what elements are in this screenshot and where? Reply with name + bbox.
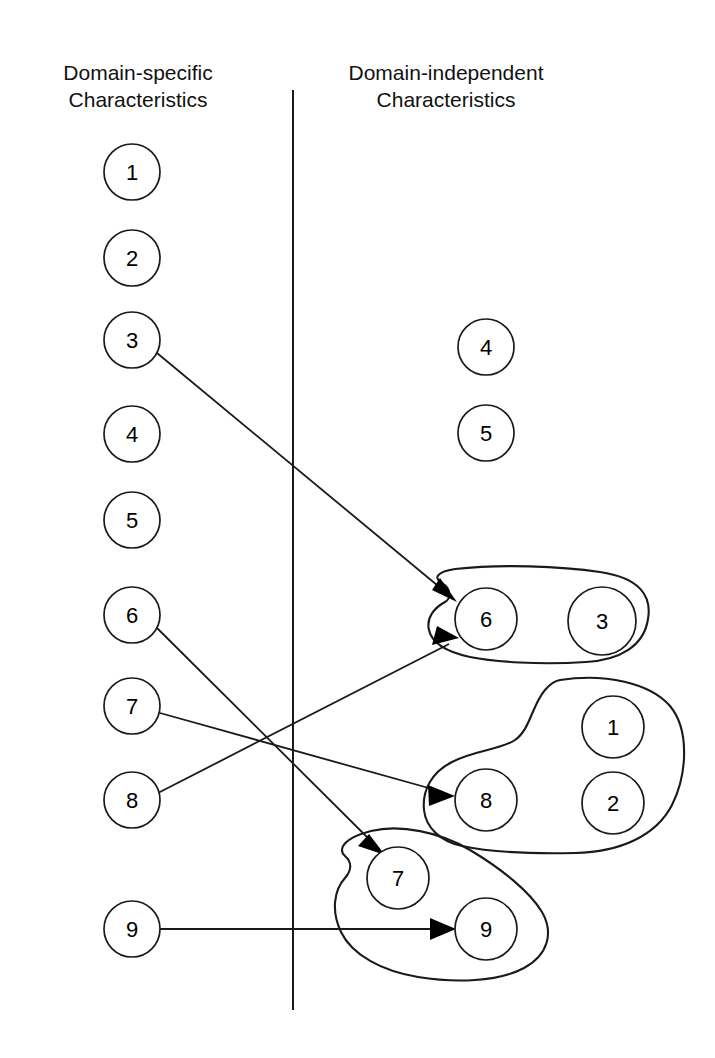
left-column-heading-line1: Domain-specific	[63, 61, 212, 84]
arrow-left8-to-right6	[158, 626, 459, 793]
left-node-9[interactable]: 9	[104, 901, 160, 957]
right-node-4[interactable]: 4	[458, 319, 514, 375]
left-node-8[interactable]: 8	[104, 772, 160, 828]
left-node-4[interactable]: 4	[104, 406, 160, 462]
arrow-left9-to-right9	[160, 918, 456, 940]
node-label: 5	[126, 508, 138, 533]
right-node-5[interactable]: 5	[458, 405, 514, 461]
node-label: 2	[126, 246, 138, 271]
left-node-5[interactable]: 5	[104, 492, 160, 548]
node-label: 4	[126, 422, 138, 447]
node-label: 7	[392, 866, 404, 891]
arrow-left6-to-right7	[157, 628, 385, 855]
right-node-2[interactable]: 2	[582, 772, 644, 834]
right-node-7[interactable]: 7	[367, 847, 429, 909]
node-label: 6	[480, 607, 492, 632]
node-label: 1	[607, 715, 619, 740]
node-label: 9	[480, 917, 492, 942]
right-column-heading-line1: Domain-independent	[349, 61, 544, 84]
diagram-root: Domain-specific Characteristics Domain-i…	[0, 0, 715, 1058]
node-label: 1	[126, 160, 138, 185]
group-blob-g2	[424, 678, 684, 853]
right-node-9[interactable]: 9	[455, 898, 517, 960]
left-column-heading-line2: Characteristics	[69, 88, 208, 111]
left-node-1[interactable]: 1	[104, 144, 160, 200]
node-label: 3	[596, 609, 608, 634]
left-node-6[interactable]: 6	[104, 587, 160, 643]
node-label: 5	[480, 421, 492, 446]
node-label: 3	[126, 328, 138, 353]
left-node-7[interactable]: 7	[104, 678, 160, 734]
right-node-8[interactable]: 8	[455, 769, 517, 831]
arrow-left3-to-right6	[157, 353, 457, 602]
node-label: 6	[126, 603, 138, 628]
node-label: 7	[126, 694, 138, 719]
left-node-3[interactable]: 3	[104, 312, 160, 368]
node-label: 8	[480, 788, 492, 813]
group-blob-g3	[335, 828, 548, 980]
node-label: 2	[607, 791, 619, 816]
right-node-1[interactable]: 1	[582, 696, 644, 758]
arrow-left7-to-right8	[160, 713, 455, 806]
left-node-2[interactable]: 2	[104, 230, 160, 286]
right-column-heading-line2: Characteristics	[377, 88, 516, 111]
right-node-6[interactable]: 6	[455, 588, 517, 650]
right-node-3[interactable]: 3	[568, 587, 636, 655]
characteristics-mapping-diagram: Domain-specific Characteristics Domain-i…	[0, 0, 715, 1058]
node-label: 8	[126, 788, 138, 813]
node-label: 4	[480, 335, 492, 360]
node-label: 9	[126, 917, 138, 942]
